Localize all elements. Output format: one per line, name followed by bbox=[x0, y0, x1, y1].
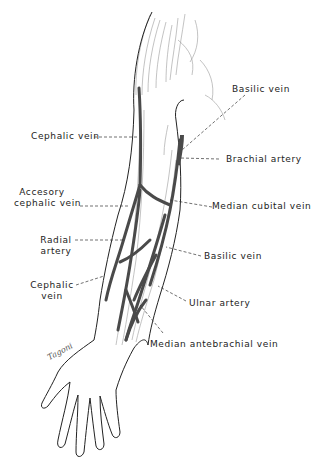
label-radial-line1: Radial bbox=[38, 235, 74, 246]
label-median-cubital-vein: Median cubital vein bbox=[212, 201, 311, 212]
label-accessory-line1: Accesory bbox=[14, 187, 78, 198]
label-radial-line2: artery bbox=[38, 246, 74, 257]
label-cephalic-line2: vein bbox=[30, 291, 74, 302]
label-brachial-artery: Brachial artery bbox=[226, 154, 302, 165]
median-cubital-vein bbox=[140, 185, 170, 205]
shoulder-shading bbox=[136, 14, 225, 120]
label-radial-artery: Radial artery bbox=[38, 235, 74, 257]
label-basilic-vein-lower: Basilic vein bbox=[204, 251, 262, 262]
label-basilic-vein-upper: Basilic vein bbox=[232, 84, 290, 95]
arm-anatomy-illustration bbox=[0, 0, 314, 467]
label-ulnar-artery: Ulnar artery bbox=[189, 298, 250, 309]
label-accessory-line2: cephalic vein bbox=[14, 198, 78, 209]
label-median-antebrachial-vein: Median antebrachial vein bbox=[150, 339, 278, 350]
basilic-vein-upper bbox=[150, 140, 180, 285]
cephalic-vein-upper bbox=[139, 88, 141, 185]
label-cephalic-line1: Cephalic bbox=[30, 280, 74, 291]
label-cephalic-vein-lower: Cephalic vein bbox=[30, 280, 74, 302]
label-cephalic-vein-upper: Cephalic vein bbox=[31, 131, 99, 142]
veins bbox=[106, 88, 180, 340]
label-accessory-cephalic-vein: Accesory cephalic vein bbox=[14, 187, 78, 209]
